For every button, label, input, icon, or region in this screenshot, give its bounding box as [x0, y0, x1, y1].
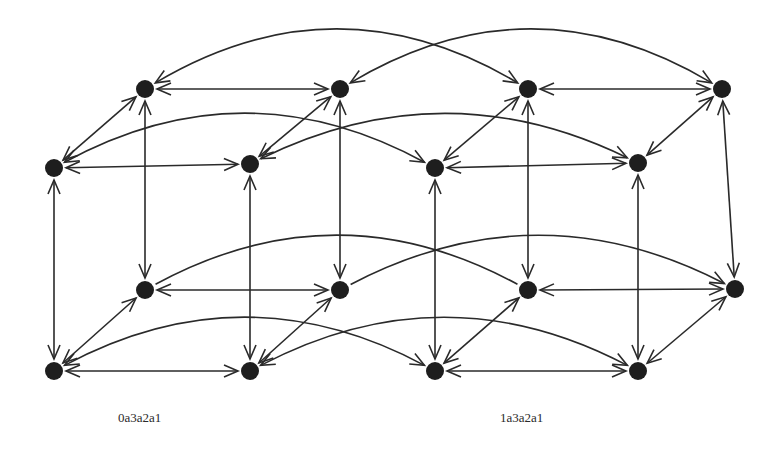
node-L_tf_r: [241, 155, 259, 173]
arrowhead-icon: [350, 71, 365, 83]
arrowhead-icon: [697, 71, 712, 83]
edge-L_tb_l-L_tb_r: [157, 83, 328, 95]
edge-L_bb_l-L_bf_l: [63, 298, 136, 363]
edge-L_bb_r-L_bf_r: [259, 298, 331, 363]
edge-R_bb_l-R_bf_l: [444, 298, 519, 363]
edge-L_tf_l-L_tf_r: [66, 159, 238, 174]
node-L_bb_l: [136, 281, 154, 299]
edge-R_tb_l-R_bb_l: [522, 101, 534, 278]
node-L_bb_r: [331, 281, 349, 299]
edge-L_tf_r-L_bf_r: [244, 176, 256, 359]
node-R_bf_r: [629, 362, 647, 380]
node-R_tb_r: [713, 80, 731, 98]
edge-L_bf_l-L_bf_r: [66, 365, 238, 377]
edge-R_bb_r-R_bf_r: [647, 297, 726, 364]
edge-R_tb_l-R_tb_r: [540, 83, 710, 95]
cube-graph-diagram: [0, 0, 780, 456]
node-R_bf_l: [426, 362, 444, 380]
edge-R_tb_l-R_tf_l: [444, 97, 519, 160]
node-R_bb_l: [519, 281, 537, 299]
edge-L_tf_l-L_bf_l: [48, 180, 60, 359]
edge-R_bf_l-R_bf_r: [447, 365, 626, 377]
arrowhead-icon: [155, 71, 170, 83]
edges-layer: [48, 83, 739, 377]
edge-L_tb_l-L_tf_l: [63, 97, 136, 160]
node-L_tb_l: [136, 80, 154, 98]
node-R_bb_r: [726, 280, 744, 298]
node-L_bf_r: [241, 362, 259, 380]
edge-R_tb_r-R_bb_r: [718, 101, 740, 277]
edge-R_tf_l-R_tf_r: [447, 158, 626, 174]
nodes-layer: [45, 80, 744, 380]
node-R_tf_r: [629, 154, 647, 172]
edge-L_bb_l-L_bb_r: [157, 284, 328, 296]
node-R_tf_l: [426, 159, 444, 177]
node-L_tb_r: [331, 80, 349, 98]
edge-R_tf_l-R_bf_l: [429, 180, 441, 359]
edge-R_tb_r-R_tf_r: [647, 97, 713, 155]
cube-label-right: 1a3a2a1: [500, 410, 543, 426]
arrowhead-icon: [503, 71, 518, 83]
node-R_tb_l: [519, 80, 537, 98]
node-L_bf_l: [45, 362, 63, 380]
edge-L_tb_r-L_tf_r: [259, 97, 331, 157]
node-L_tf_l: [45, 159, 63, 177]
arcs-layer: [65, 29, 725, 365]
cube-label-left: 0a3a2a1: [118, 410, 161, 426]
edge-R_bb_l-R_bb_r: [540, 283, 723, 296]
edge-R_tf_r-R_bf_r: [632, 175, 644, 359]
